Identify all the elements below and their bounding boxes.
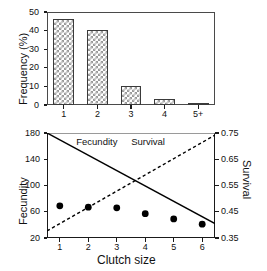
line-left-y-tick-label: 20	[30, 234, 40, 243]
line-x-tick-mark	[59, 238, 60, 242]
bar-y-tick-label: 40	[29, 26, 39, 35]
bar-y-tick-label: 10	[29, 82, 39, 91]
survival-annotation-label: Survival	[131, 137, 165, 147]
bar-x-tick-label: 4	[162, 110, 167, 119]
bar-y-tick-label: 0	[34, 101, 39, 110]
line-right-y-tick-label: 0.45	[221, 207, 239, 216]
bar-x-tick-label: 3	[128, 110, 133, 119]
bar-x-tick-mark	[63, 105, 64, 109]
line-x-tick-mark	[202, 238, 203, 242]
bar-y-tick-label: 30	[29, 45, 39, 54]
line-left-y-tick-mark	[44, 132, 48, 133]
survival-dashed-line	[47, 135, 215, 231]
line-left-y-tick-label: 180	[25, 129, 40, 138]
line-right-y-tick-label: 0.35	[221, 234, 239, 243]
line-right-y-tick-label: 0.55	[221, 181, 239, 190]
line-x-tick-label: 1	[57, 243, 62, 252]
bar-chart-y-axis-title: Frequency (%)	[18, 33, 29, 105]
bar-x-tick-mark	[97, 105, 98, 109]
bar-y-tick-mark	[44, 49, 48, 50]
bar-x-tick-mark	[164, 105, 165, 109]
line-left-y-tick-mark	[44, 211, 48, 212]
bar-y-tick-label: 20	[29, 63, 39, 72]
bar-x-tick-label: 1	[61, 110, 66, 119]
line-chart-right-y-axis-title: Survival	[241, 160, 252, 199]
line-left-y-tick-mark	[44, 159, 48, 160]
line-chart-x-axis-title: Clutch size	[97, 255, 156, 266]
line-x-tick-label: 4	[143, 243, 148, 252]
fitness-point-marker	[85, 204, 92, 211]
line-left-y-tick-mark	[44, 185, 48, 186]
line-x-tick-mark	[116, 238, 117, 242]
line-x-tick-label: 3	[114, 243, 119, 252]
bar-x-tick-label: 2	[95, 110, 100, 119]
line-right-y-tick-mark	[215, 159, 219, 160]
line-right-y-tick-label: 0.75	[221, 129, 239, 138]
line-chart-left-y-axis-title: Fecundity	[18, 177, 29, 225]
fitness-point-marker	[199, 221, 206, 228]
bar-y-tick-mark	[44, 86, 48, 87]
line-left-y-tick-label: 60	[30, 207, 40, 216]
line-x-tick-mark	[88, 238, 89, 242]
bar-3	[121, 86, 142, 105]
line-x-tick-label: 2	[86, 243, 91, 252]
fitness-point-marker	[113, 204, 120, 211]
bar-x-tick-mark	[130, 105, 131, 109]
bar-y-tick-mark	[44, 30, 48, 31]
figure-canvas: 01020304050 12345+ Frequency (%) Fecundi…	[0, 0, 267, 271]
line-x-tick-label: 5	[171, 243, 176, 252]
fecundity-annotation-label: Fecundity	[76, 137, 117, 147]
bar-y-tick-mark	[44, 11, 48, 12]
line-x-tick-mark	[145, 238, 146, 242]
line-right-y-tick-mark	[215, 211, 219, 212]
bar-y-tick-mark	[44, 67, 48, 68]
fitness-point-marker	[142, 210, 149, 217]
line-x-tick-label: 6	[200, 243, 205, 252]
line-left-y-tick-mark	[44, 237, 48, 238]
bar-2	[87, 30, 108, 105]
line-right-y-tick-mark	[215, 237, 219, 238]
line-right-y-tick-mark	[215, 132, 219, 133]
line-chart-series-layer	[47, 133, 215, 238]
bar-1	[53, 19, 74, 105]
bar-series-container	[47, 12, 215, 105]
fitness-point-marker	[170, 216, 177, 223]
bar-y-tick-label: 50	[29, 8, 39, 17]
line-right-y-tick-mark	[215, 185, 219, 186]
line-left-y-tick-label: 140	[25, 155, 40, 164]
bar-x-tick-label: 5+	[193, 110, 203, 119]
bar-y-tick-mark	[44, 104, 48, 105]
fitness-point-marker	[56, 202, 63, 209]
line-right-y-tick-label: 0.65	[221, 155, 239, 164]
line-x-tick-mark	[173, 238, 174, 242]
bar-x-tick-mark	[198, 105, 199, 109]
